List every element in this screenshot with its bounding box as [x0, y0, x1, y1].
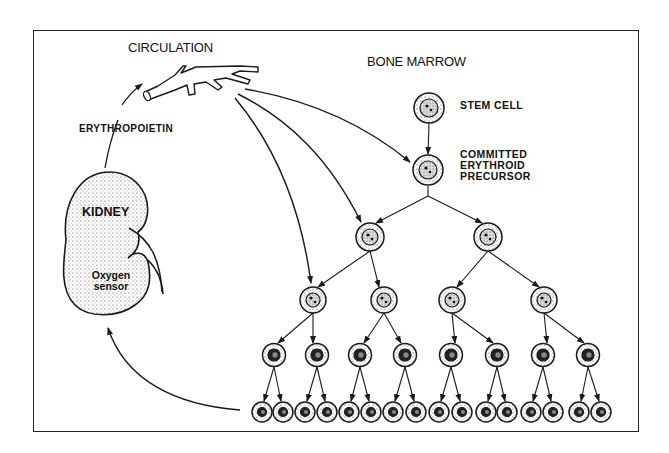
return-arrow [108, 328, 240, 410]
oxygen-sensor-label: Oxygen sensor [89, 270, 133, 292]
level5-cell [476, 402, 496, 422]
kidney-icon [64, 172, 163, 315]
level3-cell [531, 287, 557, 313]
blood-vessel-icon [142, 66, 258, 102]
level4-cell [306, 344, 329, 367]
level5-cell [429, 402, 449, 422]
level3-cell [439, 287, 465, 313]
circulation-arrow-committed [245, 89, 410, 162]
level5-cell [591, 402, 611, 422]
bone-marrow-label: BONE MARROW [367, 55, 466, 69]
level5-cell [521, 402, 541, 422]
level5-cell [569, 402, 589, 422]
level5-cell [497, 402, 517, 422]
erythropoiesis-diagram [0, 0, 669, 453]
level5-cell [406, 402, 426, 422]
level5-cell [295, 402, 315, 422]
level3-cell [300, 287, 326, 313]
level2-cell [474, 223, 502, 251]
level5-cell [361, 402, 381, 422]
erythropoietin-label: ERYTHROPOIETIN [79, 124, 173, 135]
level5-cell [383, 402, 403, 422]
level5-cell [543, 402, 563, 422]
level4-cell [394, 344, 417, 367]
committed-line3: PRECURSOR [460, 171, 531, 182]
level4-cell [532, 344, 555, 367]
level4-cell [577, 344, 600, 367]
stem-cell [414, 93, 444, 123]
level2-cell [356, 223, 384, 251]
oxygen-sensor-line2: sensor [89, 281, 133, 292]
level5-cell [273, 402, 293, 422]
circulation-arrow-level3 [235, 98, 311, 283]
stem-cell-label: STEM CELL [460, 100, 523, 111]
level4-cell [263, 344, 286, 367]
level4-cell [440, 344, 463, 367]
level4-cell [349, 344, 372, 367]
level5-cell [252, 402, 272, 422]
level3-cell [371, 287, 397, 313]
level5-cell [339, 402, 359, 422]
level5-cell [452, 402, 472, 422]
kidney-label: KIDNEY [82, 206, 129, 219]
level4-cell [486, 344, 509, 367]
committed-erythroid-precursor-cell [413, 155, 443, 185]
committed-erythroid-precursor-label: COMMITTED ERYTHROID PRECURSOR [460, 149, 531, 182]
circulation-arrow-level2 [238, 94, 361, 222]
level5-cell [317, 402, 337, 422]
circulation-label: CIRCULATION [128, 41, 213, 55]
